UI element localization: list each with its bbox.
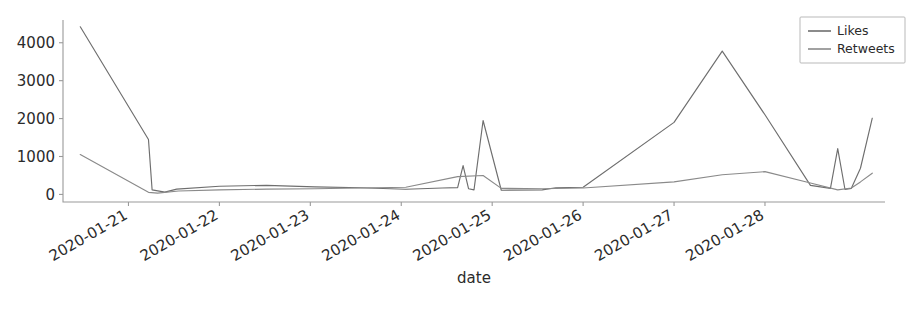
y-tick-marks xyxy=(59,43,63,195)
y-tick-label: 4000 xyxy=(17,34,55,52)
chart-figure: 01000200030004000 2020-01-212020-01-2220… xyxy=(0,0,915,311)
y-tick-label: 3000 xyxy=(17,72,55,90)
x-tick-label: 2020-01-27 xyxy=(592,206,677,265)
y-tick-label: 2000 xyxy=(17,110,55,128)
x-tick-labels: 2020-01-212020-01-222020-01-232020-01-24… xyxy=(46,206,767,265)
plot-area xyxy=(63,20,885,202)
x-tick-label: 2020-01-28 xyxy=(682,206,767,265)
x-tick-label: 2020-01-23 xyxy=(228,206,313,265)
y-tick-label: 1000 xyxy=(17,148,55,166)
x-tick-label: 2020-01-25 xyxy=(410,206,495,265)
legend-label-retweets: Retweets xyxy=(837,41,895,56)
y-tick-label: 0 xyxy=(45,186,55,204)
x-tick-label: 2020-01-24 xyxy=(319,206,404,265)
x-tick-label: 2020-01-22 xyxy=(137,206,222,265)
x-tick-marks xyxy=(128,202,765,206)
y-tick-labels: 01000200030004000 xyxy=(17,34,55,204)
line-chart: 01000200030004000 2020-01-212020-01-2220… xyxy=(0,0,915,311)
x-axis-title: date xyxy=(457,269,491,287)
plot-background xyxy=(63,20,885,202)
legend-label-likes: Likes xyxy=(837,23,868,38)
x-tick-label: 2020-01-26 xyxy=(501,206,586,265)
x-tick-label: 2020-01-21 xyxy=(46,206,131,265)
chart-legend[interactable]: LikesRetweets xyxy=(800,17,905,63)
